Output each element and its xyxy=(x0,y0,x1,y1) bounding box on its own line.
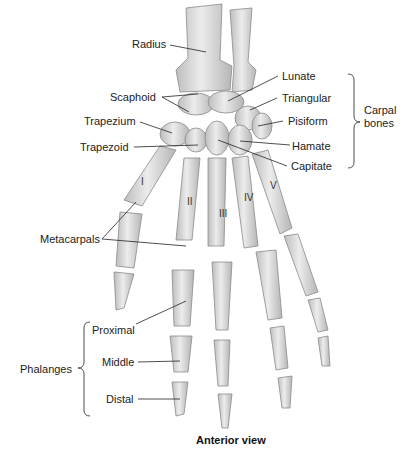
capitate-bone xyxy=(205,121,229,155)
phalanx-middle-proximal xyxy=(212,262,232,330)
label-hamate: Hamate xyxy=(292,140,331,152)
numeral-metacarpal-3: III xyxy=(219,208,227,220)
label-middle: Middle xyxy=(102,356,134,368)
label-lunate: Lunate xyxy=(282,70,316,82)
phalanx-middle-distal xyxy=(218,394,232,428)
label-trapezium: Trapezium xyxy=(84,115,136,127)
label-carpal-group-line1: Carpal xyxy=(364,104,396,116)
pisiform-bone xyxy=(252,113,272,139)
label-distal: Distal xyxy=(106,393,134,405)
phalanx-index-middle xyxy=(170,336,192,372)
phalanx-index-proximal xyxy=(172,270,194,326)
phalanx-middle-middle xyxy=(214,340,230,386)
label-radius: Radius xyxy=(132,38,166,50)
label-trapezoid: Trapezoid xyxy=(80,141,129,153)
numeral-metacarpal-1: I xyxy=(141,176,144,188)
phalanx-little-middle xyxy=(308,298,328,332)
label-phalanges-group: Phalanges xyxy=(20,363,72,375)
trapezoid-bone xyxy=(185,128,207,152)
ulna-bone xyxy=(230,8,256,92)
numeral-metacarpal-5: V xyxy=(270,180,277,192)
metacarpal-3 xyxy=(208,158,226,246)
label-scaphoid: Scaphoid xyxy=(110,91,156,103)
label-capitate: Capitate xyxy=(291,160,332,172)
phalanx-little-distal xyxy=(318,336,330,366)
phalanx-ring-distal xyxy=(278,376,292,408)
phalanx-ring-middle xyxy=(270,326,288,370)
label-triangular: Triangular xyxy=(282,92,331,104)
numeral-metacarpal-2: II xyxy=(187,196,193,208)
phalanx-ring-proximal xyxy=(256,250,282,320)
numeral-metacarpal-4: IV xyxy=(244,192,253,204)
label-pisiform: Pisiform xyxy=(288,115,328,127)
hand-skeleton-illustration xyxy=(0,0,420,456)
metacarpal-1 xyxy=(124,146,176,206)
label-carpal-group-line2: bones xyxy=(364,117,394,129)
label-metacarpals: Metacarpals xyxy=(40,233,100,245)
metacarpal-5 xyxy=(252,150,292,234)
hamate-bone xyxy=(228,125,252,155)
label-proximal: Proximal xyxy=(92,324,135,336)
phalanx-thumb-proximal xyxy=(116,212,142,268)
phalanx-little-proximal xyxy=(284,234,318,296)
figure-caption: Anterior view xyxy=(196,434,266,446)
phalanx-thumb-distal xyxy=(114,272,134,310)
